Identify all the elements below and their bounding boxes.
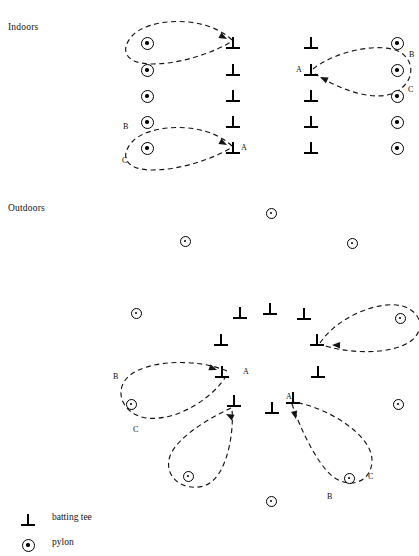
legend-label-pylon: pylon — [52, 537, 74, 547]
path-label-indoors-left-a: A — [241, 143, 247, 152]
pylon-marker — [141, 37, 154, 50]
pylon-marker — [395, 313, 406, 324]
pylon-marker — [347, 238, 358, 249]
arrow-outdoors-mid — [225, 411, 235, 420]
pylon-marker — [266, 208, 277, 219]
batting-tee-marker — [233, 306, 247, 320]
path-label-indoors-right-b: B — [409, 50, 415, 59]
pylon-marker — [141, 64, 154, 77]
batting-tee-marker — [311, 365, 325, 379]
batting-tee-marker — [226, 141, 240, 155]
pylon-marker — [391, 142, 404, 155]
pylon-marker — [126, 399, 137, 410]
batting-tee-marker — [226, 63, 240, 77]
path-label-outdoors-left-a: A — [243, 367, 249, 376]
path-label-outdoors-left-b: B — [113, 372, 119, 381]
arrow-indoors-right — [319, 74, 329, 83]
movement-path-outdoors-mid — [169, 408, 233, 487]
legend-label-batting-tee: batting tee — [52, 512, 92, 522]
arrow-outdoors-right-mid — [332, 342, 340, 349]
legend: batting tee pylon — [0, 508, 419, 556]
batting-tee-icon — [21, 513, 35, 527]
batting-tee-marker — [304, 36, 318, 50]
pylon-marker — [141, 142, 154, 155]
batting-tee-marker — [214, 333, 228, 347]
pylon-marker — [391, 64, 404, 77]
batting-tee-marker — [297, 307, 311, 321]
pylon-marker — [180, 236, 191, 247]
path-label-indoors-right-c: C — [408, 85, 414, 94]
pylon-marker — [141, 116, 154, 129]
movement-path-outdoors-right-low — [292, 402, 372, 483]
batting-tee-marker — [265, 401, 279, 415]
batting-tee-marker — [304, 141, 318, 155]
legend-row-pylon: pylon — [0, 533, 419, 556]
batting-tee-marker — [310, 333, 324, 347]
batting-tee-marker — [304, 89, 318, 103]
path-label-indoors-left-c: C — [122, 156, 128, 165]
batting-tee-marker — [226, 115, 240, 129]
pylon-marker — [131, 308, 142, 319]
section-label-indoors: Indoors — [8, 22, 38, 32]
pylon-icon — [22, 539, 35, 552]
path-label-outdoors-left-c: C — [133, 425, 139, 434]
path-label-indoors-right-a: A — [296, 65, 302, 74]
legend-row-batting-tee: batting tee — [0, 508, 419, 533]
batting-tee-marker — [304, 115, 318, 129]
batting-tee-marker — [227, 394, 241, 408]
batting-tee-marker — [215, 365, 229, 379]
batting-tee-marker — [226, 89, 240, 103]
batting-tee-marker — [226, 36, 240, 50]
pylon-marker — [391, 90, 404, 103]
pylon-marker — [344, 473, 355, 484]
movement-path-outdoors-left — [121, 362, 227, 418]
arrow-outdoors-right-low — [291, 410, 299, 419]
path-label-outdoors-right-b: B — [327, 492, 333, 501]
section-label-outdoors: Outdoors — [8, 203, 45, 213]
pylon-marker — [266, 496, 277, 507]
pylon-marker — [141, 90, 154, 103]
pylon-marker — [183, 471, 194, 482]
movement-path-outdoors-right-mid — [320, 305, 419, 352]
batting-tee-marker — [263, 302, 277, 316]
path-label-outdoors-right-c: C — [368, 472, 374, 481]
pylon-marker — [393, 399, 404, 410]
pylon-marker — [391, 37, 404, 50]
path-label-outdoors-right-a: A — [286, 392, 292, 401]
pylon-marker — [391, 116, 404, 129]
path-label-indoors-left-b: B — [123, 122, 129, 131]
batting-tee-marker — [304, 63, 318, 77]
